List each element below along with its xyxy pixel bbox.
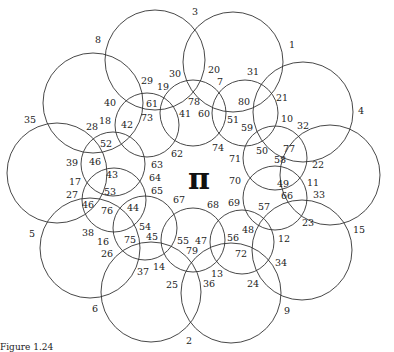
inner-circle bbox=[161, 208, 225, 272]
inner-circle bbox=[212, 80, 278, 146]
region-number-label: 12 bbox=[278, 233, 290, 244]
outer-circle bbox=[280, 125, 380, 225]
region-number-label: 36 bbox=[203, 278, 215, 289]
region-number-label: 46 bbox=[89, 156, 101, 167]
region-number-label: 56 bbox=[227, 232, 239, 243]
region-number-label: 20 bbox=[208, 64, 220, 75]
region-number-label: 35 bbox=[24, 114, 36, 125]
region-number-label: 17 bbox=[69, 176, 81, 187]
region-number-label: 62 bbox=[171, 148, 183, 159]
region-number-label: 39 bbox=[66, 157, 78, 168]
region-number-label: 77 bbox=[283, 143, 295, 154]
region-number-label: 30 bbox=[169, 68, 181, 79]
region-number-label: 1 bbox=[289, 39, 295, 50]
outer-circle bbox=[101, 242, 201, 342]
region-number-label: 7 bbox=[217, 76, 223, 87]
region-number-label: 64 bbox=[149, 172, 161, 183]
region-number-label: 68 bbox=[207, 199, 219, 210]
region-number-label: 79 bbox=[186, 245, 198, 256]
region-number-label: 5 bbox=[29, 228, 35, 239]
region-number-label: 44 bbox=[127, 202, 139, 213]
region-number-label: 78 bbox=[188, 96, 200, 107]
region-number-label: 33 bbox=[313, 189, 325, 200]
region-number-label: 58 bbox=[274, 154, 286, 165]
region-number-label: 18 bbox=[99, 115, 111, 126]
region-number-label: 16 bbox=[97, 236, 109, 247]
region-number-label: 34 bbox=[275, 257, 287, 268]
inner-circle bbox=[210, 210, 274, 274]
region-number-label: 10 bbox=[281, 113, 293, 124]
region-number-label: 53 bbox=[104, 186, 116, 197]
region-number-label: 9 bbox=[284, 305, 290, 316]
region-number-label: 15 bbox=[353, 224, 365, 235]
region-number-label: 60 bbox=[198, 108, 210, 119]
region-number-label: 19 bbox=[157, 81, 169, 92]
region-number-label: 41 bbox=[179, 108, 191, 119]
region-number-label: 11 bbox=[307, 177, 319, 188]
region-number-label: 69 bbox=[228, 197, 240, 208]
region-number-label: 28 bbox=[86, 121, 98, 132]
region-number-label: 31 bbox=[247, 66, 259, 77]
region-number-label: 37 bbox=[137, 266, 149, 277]
region-number-label: 51 bbox=[227, 114, 239, 125]
inner-circle bbox=[243, 166, 307, 230]
region-number-label: 72 bbox=[235, 248, 247, 259]
region-number-label: 67 bbox=[173, 194, 185, 205]
region-number-label: 52 bbox=[100, 138, 112, 149]
region-number-label: 48 bbox=[242, 224, 254, 235]
region-number-label: 65 bbox=[151, 185, 163, 196]
region-number-label: 50 bbox=[256, 145, 268, 156]
region-number-label: 23 bbox=[302, 217, 314, 228]
outer-circle bbox=[181, 243, 281, 343]
region-number-label: 4 bbox=[358, 105, 364, 116]
region-number-label: 46 bbox=[82, 199, 94, 210]
region-number-label: 25 bbox=[166, 279, 178, 290]
region-number-label: 32 bbox=[297, 120, 309, 131]
region-number-label: 3 bbox=[192, 6, 198, 17]
region-number-label: 71 bbox=[229, 153, 241, 164]
region-number-label: 26 bbox=[101, 248, 113, 259]
region-number-label: 63 bbox=[151, 159, 163, 170]
region-number-label: 61 bbox=[146, 98, 158, 109]
region-number-label: 8 bbox=[95, 34, 101, 45]
region-number-label: 66 bbox=[281, 190, 293, 201]
region-number-label: 80 bbox=[238, 96, 250, 107]
pi-symbol: π bbox=[188, 161, 210, 196]
region-number-label: 57 bbox=[258, 201, 270, 212]
region-number-label: 38 bbox=[82, 227, 94, 238]
region-number-label: 73 bbox=[141, 112, 153, 123]
region-number-label: 14 bbox=[153, 261, 165, 272]
region-number-label: 22 bbox=[312, 159, 324, 170]
region-number-label: 6 bbox=[92, 303, 98, 314]
region-number-label: 45 bbox=[146, 231, 158, 242]
region-number-label: 74 bbox=[212, 142, 224, 153]
figure-caption: Figure 1.24 bbox=[0, 342, 53, 352]
inner-circle bbox=[160, 80, 226, 146]
region-number-label: 43 bbox=[106, 169, 118, 180]
region-number-label: 21 bbox=[276, 92, 288, 103]
region-number-label: 24 bbox=[247, 278, 259, 289]
region-number-label: 27 bbox=[66, 189, 78, 200]
region-number-label: 76 bbox=[101, 205, 113, 216]
region-number-label: 49 bbox=[277, 178, 289, 189]
region-number-label: 70 bbox=[229, 175, 241, 186]
region-number-label: 59 bbox=[241, 122, 253, 133]
region-number-label: 75 bbox=[124, 234, 136, 245]
region-number-label: 2 bbox=[186, 335, 192, 346]
region-number-label: 42 bbox=[121, 119, 133, 130]
region-number-label: 29 bbox=[141, 75, 153, 86]
region-number-label: 40 bbox=[104, 97, 116, 108]
outer-circle bbox=[40, 198, 140, 298]
